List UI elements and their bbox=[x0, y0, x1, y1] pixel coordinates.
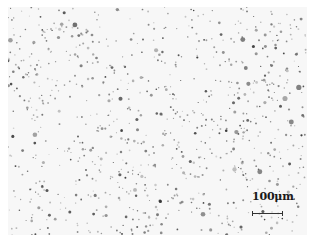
scale-bar bbox=[252, 211, 283, 216]
scale-bar-label: 100μm bbox=[252, 190, 294, 203]
scale-bar-right-tick bbox=[282, 211, 283, 216]
scale-bar-left-tick bbox=[252, 211, 253, 216]
micrograph-image: 100μm bbox=[8, 7, 307, 235]
scale-bar-line bbox=[252, 213, 283, 214]
image-frame: 100μm bbox=[0, 0, 313, 240]
